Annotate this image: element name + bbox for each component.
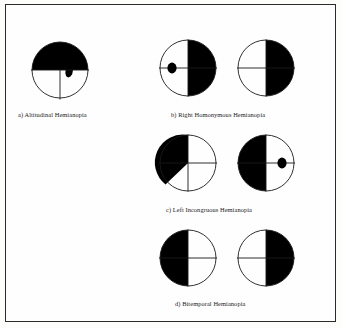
field-a-single — [31, 42, 89, 100]
caption-c: c) Left Incongruous Hemianopia — [166, 205, 252, 214]
caption-d: d) Bitemporal Hemianopia — [175, 299, 245, 308]
caption-a: a) Altitudinal Hemianopia — [18, 110, 87, 119]
field-b-right-eye — [237, 40, 295, 97]
field-c-right-eye — [237, 135, 295, 192]
figure-root: a) Altitudinal Hemianopia b) Right Homon… — [0, 0, 342, 328]
field-d-right-eye — [237, 230, 295, 287]
caption-b: b) Right Homonymous Hemianopia — [171, 110, 265, 119]
field-d-left-eye — [159, 230, 217, 287]
field-c-right-blind-spot — [277, 158, 286, 169]
visual-field-diagrams — [0, 0, 342, 328]
field-b-left-eye — [159, 40, 217, 97]
field-b-left-blind-spot — [167, 63, 176, 74]
field-c-left-eye — [155, 135, 217, 192]
